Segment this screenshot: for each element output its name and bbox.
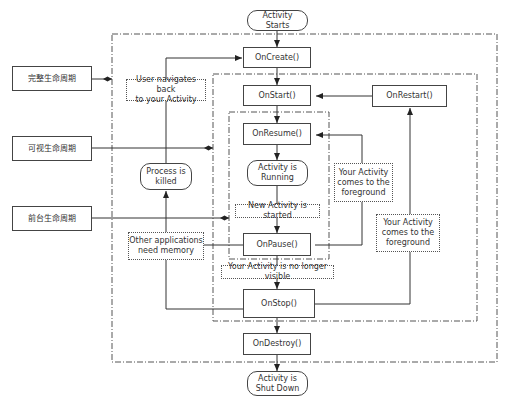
on-restart-text: OnRestart() (386, 91, 432, 101)
on-create-text: OnCreate() (255, 53, 299, 63)
user-navigates-back-note: User navigates back to your Activity (126, 79, 206, 101)
line-pause-to-foreground-note (315, 202, 362, 245)
on-restart-box: OnRestart() (372, 85, 447, 107)
on-stop-box: OnStop() (243, 289, 315, 318)
on-destroy-text: OnDestroy() (253, 339, 302, 349)
activity-starts-text: Activity Starts (263, 11, 293, 31)
process-killed-text: Process is killed (146, 167, 185, 187)
on-pause-box: OnPause() (243, 233, 311, 256)
on-start-text: OnStart() (258, 91, 295, 101)
visible-lifecycle-text: 可视生命周期 (28, 144, 76, 154)
on-resume-box: OnResume() (243, 123, 311, 145)
on-destroy-box: OnDestroy() (243, 333, 311, 355)
no-longer-visible-text: Your Activity is no longer visible (222, 262, 333, 282)
complete-lifecycle-text: 完整生命周期 (28, 74, 76, 84)
on-stop-text: OnStop() (261, 299, 297, 309)
other-apps-need-memory-note: Other applications need memory (128, 232, 204, 260)
activity-starts-terminal: Activity Starts (247, 10, 308, 31)
on-create-box: OnCreate() (243, 47, 311, 68)
on-pause-text: OnPause() (256, 240, 297, 250)
new-activity-started-text: New Activity is started (236, 201, 319, 221)
user-navigates-back-text: User navigates back to your Activity (127, 75, 205, 105)
new-activity-started-note: New Activity is started (235, 204, 320, 218)
comes-to-foreground-note-2: Your Activity comes to the foreground (376, 214, 440, 252)
activity-running-terminal: Activity is Running (247, 160, 308, 186)
activity-running-text: Activity is Running (258, 163, 297, 183)
comes-to-foreground-text-1: Your Activity comes to the foreground (337, 168, 389, 198)
no-longer-visible-note: Your Activity is no longer visible (221, 265, 334, 279)
comes-to-foreground-note-1: Your Activity comes to the foreground (334, 163, 393, 202)
foreground-lifecycle-text: 前台生命周期 (28, 214, 76, 224)
activity-shutdown-text: Activity is Shut Down (256, 374, 300, 394)
on-start-box: OnStart() (243, 85, 311, 106)
visible-lifecycle-label: 可视生命周期 (12, 136, 92, 161)
foreground-lifecycle-label: 前台生命周期 (12, 206, 92, 231)
activity-shutdown-terminal: Activity is Shut Down (247, 371, 308, 396)
on-resume-text: OnResume() (252, 129, 302, 139)
arrow-foreground-note-to-resume (316, 135, 362, 163)
complete-lifecycle-label: 完整生命周期 (12, 66, 92, 91)
comes-to-foreground-text-2: Your Activity comes to the foreground (382, 218, 434, 248)
other-apps-need-memory-text: Other applications need memory (129, 236, 203, 256)
process-killed-terminal: Process is killed (140, 163, 192, 190)
